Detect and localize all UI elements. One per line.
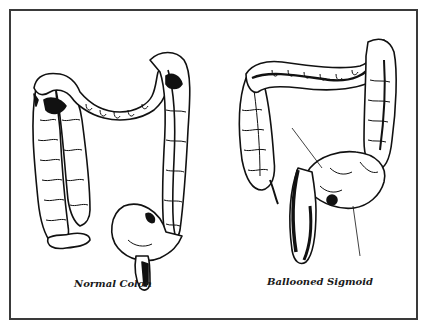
- normal-colon-drawing: [33, 53, 190, 291]
- caption-ballooned-sigmoid: Ballooned Sigmoid: [267, 276, 373, 287]
- caption-normal-colon: Normal Colon: [74, 278, 152, 289]
- ballooned-sigmoid-drawing: [239, 39, 396, 263]
